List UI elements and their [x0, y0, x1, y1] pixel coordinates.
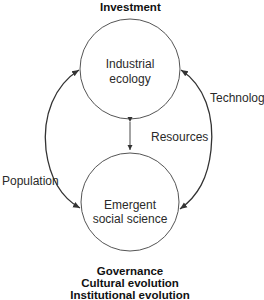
technology-arrow-down	[180, 150, 211, 209]
industrial-ecology-line1: Industrial	[90, 57, 170, 72]
governance-label: Governance	[60, 265, 200, 277]
industrial-ecology-line2: ecology	[90, 72, 170, 87]
technology-label: Technology	[210, 92, 264, 105]
emergent-social-science-line2: social science	[85, 212, 175, 226]
industrial-ecology-label: Industrial ecology	[90, 57, 170, 87]
institutional-evolution-label: Institutional evolution	[60, 289, 200, 300]
cultural-evolution-label: Cultural evolution	[60, 277, 200, 289]
emergent-social-science-label: Emergent social science	[85, 198, 175, 226]
bottom-labels: Governance Cultural evolution Institutio…	[60, 265, 200, 300]
population-arrow-up	[45, 70, 79, 150]
emergent-social-science-line1: Emergent	[85, 198, 175, 212]
population-label: Population	[2, 175, 59, 188]
resources-label: Resources	[151, 131, 208, 144]
diagram-canvas	[0, 0, 264, 300]
investment-label: Investment	[100, 1, 160, 14]
